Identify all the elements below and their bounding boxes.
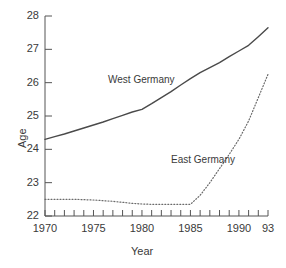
series-label-west-germany: West Germany bbox=[108, 74, 175, 85]
y-axis-ticks bbox=[45, 16, 52, 216]
y-tick-label: 26 bbox=[19, 76, 39, 88]
data-series-group bbox=[45, 28, 268, 205]
chart-container: Age Year 2223242526272819701975198019851… bbox=[0, 0, 286, 268]
series-label-east-germany: East Germany bbox=[171, 154, 235, 165]
y-tick-label: 27 bbox=[19, 42, 39, 54]
x-axis-ticks bbox=[45, 210, 268, 216]
y-tick-label: 22 bbox=[19, 209, 39, 221]
x-tick-label: 93 bbox=[248, 222, 286, 234]
x-tick-label: 1970 bbox=[25, 222, 65, 234]
x-tick-label: 1980 bbox=[122, 222, 162, 234]
x-axis-title: Year bbox=[131, 245, 153, 257]
series-line-east-germany bbox=[45, 74, 268, 204]
y-tick-label: 23 bbox=[19, 176, 39, 188]
x-tick-label: 1985 bbox=[170, 222, 210, 234]
x-tick-label: 1975 bbox=[73, 222, 113, 234]
y-tick-label: 24 bbox=[19, 142, 39, 154]
y-tick-label: 28 bbox=[19, 9, 39, 21]
axes bbox=[45, 16, 268, 216]
y-tick-label: 25 bbox=[19, 109, 39, 121]
